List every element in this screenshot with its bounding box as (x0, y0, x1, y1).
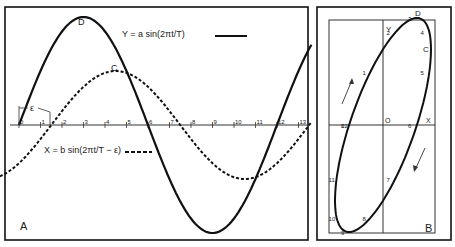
tick-label: 10 (235, 119, 242, 125)
ellipse-point-labels: 0123456789101112 (329, 16, 425, 236)
tick-label: 3 (85, 119, 89, 125)
ellipse-point-label: 7 (386, 177, 390, 183)
y-equation: Y = a sin(2πt/T) (122, 29, 185, 39)
ellipse-point-label: 5 (420, 70, 424, 76)
tick-label: 8 (192, 119, 196, 125)
origin-label: O (385, 117, 391, 124)
point-d-label: D (78, 17, 85, 27)
x-equation: X = b sin(2πt/T − ε) (44, 145, 121, 155)
panel-a-label: A (20, 220, 28, 232)
ellipse-point-label: 10 (329, 216, 336, 222)
ellipse-point-label: 12 (341, 123, 348, 129)
ellipse-point-label: 4 (420, 30, 424, 36)
ellipse-point-label: 1 (363, 70, 367, 76)
direction-arrow-down-icon (413, 148, 425, 172)
point-c-label-b: C (423, 45, 429, 54)
tick-label: 5 (128, 119, 132, 125)
ellipse-point-label: 11 (329, 177, 336, 183)
direction-arrow-up-icon (342, 78, 354, 104)
x-axis-label: X (426, 117, 431, 124)
tick-label: 2 (63, 119, 67, 125)
epsilon-label: ε (30, 103, 34, 113)
tick-label: 7 (171, 119, 175, 125)
ellipse-point-label: 8 (363, 216, 367, 222)
panel-b-label: B (425, 222, 432, 234)
figure: 012345678910111213 ε D C Y = a sin(2πt/T… (0, 0, 455, 247)
point-d-label-b: D (415, 9, 421, 18)
axis-ticks: 012345678910111213 (19, 119, 307, 128)
tick-label: 4 (106, 119, 110, 125)
tick-label: 9 (214, 119, 218, 125)
point-c-label: C (111, 63, 118, 73)
tick-label: 1 (42, 119, 46, 125)
tick-label: 11 (257, 119, 264, 125)
ellipse-point-label: 6 (408, 123, 412, 129)
tick-label: 6 (149, 119, 153, 125)
tick-label: 13 (300, 119, 307, 125)
